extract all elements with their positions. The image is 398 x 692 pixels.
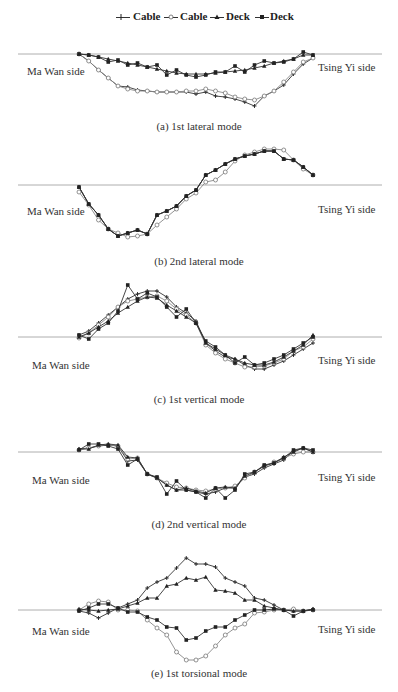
- data-point-marker: [204, 562, 208, 566]
- data-point-marker: [116, 234, 120, 238]
- data-point-marker: [165, 625, 169, 629]
- data-point-marker: [126, 87, 130, 91]
- data-point-marker: [243, 97, 247, 101]
- data-point-marker: [214, 178, 218, 182]
- data-point-marker: [243, 472, 247, 476]
- data-point-marker: [165, 633, 169, 637]
- data-point-marker: [233, 95, 237, 99]
- data-point-marker: [223, 95, 227, 99]
- label-ma-wan-side: Ma Wan side: [27, 65, 85, 77]
- mode-shape-plot-b: [0, 115, 398, 275]
- data-point-marker: [155, 475, 159, 479]
- data-point-marker: [282, 80, 286, 84]
- data-point-marker: [175, 479, 179, 483]
- data-point-marker: [253, 608, 257, 612]
- data-point-marker: [311, 341, 315, 345]
- data-point-marker: [136, 89, 140, 93]
- data-point-marker: [174, 582, 178, 586]
- data-point-marker: [214, 345, 218, 349]
- data-point-marker: [97, 602, 101, 606]
- data-point-marker: [126, 63, 130, 67]
- data-point-marker: [155, 580, 159, 584]
- data-point-marker: [223, 496, 227, 500]
- caption-d: (d) 2nd vertical mode: [0, 518, 398, 530]
- data-point-marker: [233, 618, 237, 622]
- data-point-marker: [136, 292, 140, 296]
- data-point-marker: [106, 227, 110, 231]
- data-point-marker: [77, 448, 81, 452]
- data-point-marker: [126, 299, 130, 303]
- data-point-marker: [243, 365, 247, 369]
- data-point-marker: [87, 442, 91, 446]
- data-point-marker: [253, 152, 257, 156]
- data-point-marker: [204, 339, 208, 343]
- data-point-marker: [214, 168, 218, 172]
- data-point-marker: [311, 448, 315, 452]
- data-point-marker: [184, 73, 188, 77]
- label-ma-wan-side: Ma Wan side: [32, 359, 90, 371]
- data-point-marker: [77, 609, 81, 613]
- data-point-marker: [223, 70, 227, 74]
- series-line-deck-filled-triangle: [79, 54, 313, 74]
- data-point-marker: [155, 213, 159, 217]
- data-point-marker: [204, 496, 208, 500]
- data-point-marker: [97, 213, 101, 217]
- data-point-marker: [194, 89, 198, 93]
- data-point-marker: [194, 321, 198, 325]
- data-point-marker: [214, 486, 218, 490]
- data-point-marker: [272, 61, 276, 65]
- label-tsing-yi-side: Tsing Yi side: [318, 623, 376, 635]
- data-point-marker: [184, 658, 188, 662]
- data-point-marker: [97, 442, 101, 446]
- data-point-marker: [253, 470, 257, 474]
- data-point-marker: [262, 94, 266, 98]
- legend-markers: [0, 10, 398, 26]
- data-point-marker: [175, 204, 179, 208]
- data-point-marker: [184, 307, 188, 311]
- data-point-marker: [223, 170, 227, 174]
- data-point-marker: [77, 190, 81, 194]
- data-point-marker: [116, 309, 120, 313]
- data-point-marker: [184, 488, 188, 492]
- data-point-marker: [243, 622, 247, 626]
- data-point-marker: [184, 194, 188, 198]
- data-point-marker: [136, 228, 140, 232]
- data-point-marker: [262, 59, 266, 63]
- data-point-marker: [204, 73, 208, 77]
- data-point-marker: [155, 90, 159, 94]
- data-point-marker: [204, 654, 208, 658]
- data-point-marker: [97, 616, 101, 620]
- data-point-marker: [165, 90, 169, 94]
- data-point-marker: [145, 65, 149, 69]
- label-ma-wan-side: Ma Wan side: [32, 625, 90, 637]
- series-line-deck-filled-triangle: [79, 444, 313, 493]
- data-point-marker: [272, 89, 276, 93]
- data-point-marker: [87, 606, 91, 610]
- caption-c: (c) 1st vertical mode: [0, 393, 398, 405]
- data-point-marker: [282, 608, 286, 612]
- data-point-marker: [184, 576, 188, 580]
- data-point-marker: [262, 604, 266, 608]
- data-point-marker: [243, 154, 247, 158]
- data-point-marker: [214, 94, 218, 98]
- data-point-marker: [126, 610, 130, 614]
- data-point-marker: [223, 162, 227, 166]
- data-point-marker: [272, 461, 276, 465]
- label-tsing-yi-side: Tsing Yi side: [318, 61, 376, 73]
- data-point-marker: [116, 58, 120, 62]
- data-point-marker: [292, 614, 296, 618]
- data-point-marker: [145, 291, 149, 295]
- data-point-marker: [194, 562, 198, 566]
- data-point-marker: [253, 363, 257, 367]
- data-point-marker: [87, 202, 91, 206]
- data-point-marker: [194, 636, 198, 640]
- data-point-marker: [155, 295, 159, 299]
- data-point-marker: [97, 218, 101, 222]
- data-point-marker: [282, 157, 286, 161]
- data-point-marker: [214, 625, 218, 629]
- label-tsing-yi-side: Tsing Yi side: [318, 203, 376, 215]
- data-point-marker: [165, 492, 169, 496]
- data-point-marker: [87, 53, 91, 57]
- data-point-marker: [194, 658, 198, 662]
- data-point-marker: [233, 580, 237, 584]
